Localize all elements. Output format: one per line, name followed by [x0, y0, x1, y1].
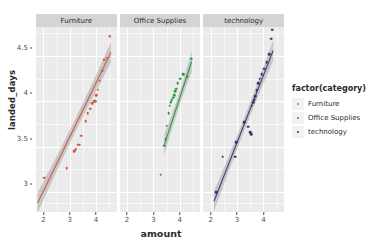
x-tick-label: 4 [94, 216, 98, 224]
data-point [89, 107, 92, 110]
data-point [78, 144, 81, 147]
legend-item[interactable]: technology [292, 125, 372, 139]
facet-strip-label: Office Supplies [120, 14, 201, 27]
data-point [186, 76, 189, 79]
legend-key-swatch [292, 126, 304, 138]
legend-label: technology [308, 128, 347, 136]
legend-key-swatch [292, 98, 304, 110]
data-point [65, 167, 68, 170]
data-point [173, 94, 176, 97]
data-point [164, 138, 167, 141]
data-point [268, 53, 271, 56]
x-tick-label: 4 [178, 216, 182, 224]
data-point [182, 73, 185, 76]
data-point [84, 120, 87, 123]
facet-x-ticks: 234 [36, 212, 117, 226]
data-point [94, 100, 97, 103]
data-point [174, 90, 177, 93]
x-tick-label: 3 [235, 216, 239, 224]
x-axis-title: amount [36, 228, 286, 239]
facet-furniture: Furniture [36, 14, 117, 212]
facet-office-supplies: Office Supplies [120, 14, 201, 212]
x-axis-tick-labels: 234234234 [36, 212, 284, 226]
data-point [190, 57, 193, 60]
plot-panel [36, 27, 117, 212]
data-point [74, 148, 77, 151]
data-point [250, 133, 253, 136]
data-point [175, 87, 178, 90]
regression-line [203, 27, 284, 212]
regression-line [120, 27, 201, 212]
data-point [235, 141, 238, 144]
data-point [105, 57, 108, 60]
data-point [80, 135, 83, 138]
y-axis-tick-labels: 4.543.53 [0, 20, 33, 212]
data-point [163, 145, 166, 148]
x-tick-label: 3 [151, 216, 155, 224]
data-point [168, 105, 171, 108]
data-point [86, 112, 89, 115]
facet-strip-label: Furniture [36, 14, 117, 27]
legend-label: Office Supplies [308, 114, 360, 122]
data-point [95, 94, 98, 97]
data-point [99, 79, 102, 82]
data-point [263, 67, 266, 70]
data-point [247, 125, 250, 128]
data-point [255, 89, 258, 92]
legend-dot-icon [297, 117, 300, 120]
data-point [271, 28, 274, 31]
data-point [165, 125, 168, 128]
data-point [160, 174, 163, 177]
data-point [215, 191, 218, 194]
x-tick-label: 4 [261, 216, 265, 224]
fit-line [38, 52, 111, 203]
y-tick-label: 4 [24, 89, 28, 97]
legend-title: factor(category) [292, 84, 372, 93]
fit-line [164, 61, 191, 144]
data-point [253, 98, 256, 101]
data-point [254, 95, 257, 98]
plot-panel [203, 27, 284, 212]
y-tick-label: 3.5 [17, 135, 28, 143]
y-tick-label: 3 [24, 180, 28, 188]
x-tick-label: 2 [41, 216, 45, 224]
data-point [252, 101, 255, 104]
data-point [258, 77, 261, 80]
data-point [43, 176, 46, 179]
data-point [167, 112, 170, 115]
data-point [176, 82, 179, 85]
data-point [96, 88, 99, 91]
legend: factor(category) FurnitureOffice Supplie… [292, 84, 372, 139]
legend-label: Furniture [308, 100, 339, 108]
data-point [261, 73, 264, 76]
facet-strip-label: technology [203, 14, 284, 27]
x-tick-label: 3 [68, 216, 72, 224]
data-point [234, 155, 237, 158]
data-point [265, 61, 268, 64]
facet-x-ticks: 234 [203, 212, 284, 226]
plot-panel [120, 27, 201, 212]
data-point [109, 35, 112, 38]
facet-x-ticks: 234 [120, 212, 201, 226]
legend-item[interactable]: Furniture [292, 97, 372, 111]
legend-items: FurnitureOffice Suppliestechnology [292, 97, 372, 139]
y-tick-label: 4.5 [17, 44, 28, 52]
data-point [270, 37, 273, 40]
data-point [257, 82, 260, 85]
data-point [243, 121, 246, 124]
legend-key-swatch [292, 112, 304, 124]
fit-line [214, 51, 273, 202]
facet-panels: FurnitureOffice Suppliestechnology [36, 14, 284, 212]
ggplot-chart: landed_days 4.543.53 FurnitureOffice Sup… [0, 0, 372, 246]
legend-dot-icon [297, 131, 300, 134]
legend-dot-icon [297, 103, 300, 106]
regression-line [36, 27, 117, 212]
data-point [222, 155, 225, 158]
data-point [171, 99, 174, 102]
facet-technology: technology [203, 14, 284, 212]
data-point [172, 96, 175, 99]
data-point [101, 69, 104, 72]
data-point [179, 77, 182, 80]
data-point [251, 105, 254, 108]
legend-item[interactable]: Office Supplies [292, 111, 372, 125]
